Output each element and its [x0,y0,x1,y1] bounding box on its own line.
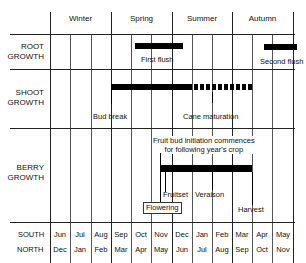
grid-line-3 [111,12,112,263]
month-north-1: Jan [70,245,90,254]
month-south-6: Dec [172,230,192,239]
label-veraison: Veraison [195,190,224,199]
row-label-berry-line2: GROWTH [0,173,44,183]
season-winter: Winter [50,14,111,23]
tick-harvest [252,172,253,205]
label-fruit-bud-line1: Fruit bud initiation commences [153,136,255,145]
label-flowering: Flowering [143,202,182,214]
month-north-10: Oct [252,245,272,254]
month-south-8: Feb [212,230,232,239]
row-label-berry: BERRY GROWTH [0,163,44,183]
bar-berry-growth [160,165,252,172]
month-north-5: May [151,245,171,254]
month-north-4: Apr [131,245,151,254]
tick-veraison [212,172,213,190]
row-divider-header [10,34,295,35]
row-label-shoot-line1: SHOOT [0,88,44,98]
tick-fruit-bud-initiation [160,153,161,205]
month-north-2: Feb [91,245,111,254]
label-fruitset: Fruitset [163,190,188,199]
month-south-7: Jan [192,230,212,239]
bar-first-flush [135,43,183,49]
tick-fruitset [165,172,166,192]
bar-second-flush [264,44,297,50]
month-north-6: Jun [172,245,192,254]
grid-line-0 [50,12,51,263]
label-north: NORTH [17,245,44,254]
month-south-9: Mar [232,230,252,239]
row-divider-berry [10,222,295,223]
season-autumn: Autumn [232,14,293,23]
row-label-root-line2: GROWTH [0,52,44,62]
label-fruit-bud-line2: for following year's crop [153,145,255,154]
label-first-flush: First flush [141,55,174,64]
label-second-flush: Second flush [260,57,303,66]
month-south-3: Sep [111,230,131,239]
month-south-10: Apr [252,230,272,239]
row-label-root-line1: ROOT [0,42,44,52]
tick-cane-maturation [212,92,213,103]
season-spring: Spring [111,14,172,23]
season-summer: Summer [172,14,232,23]
row-divider-shoot [10,128,295,129]
month-north-0: Dec [50,245,70,254]
label-harvest: Harvest [238,205,264,214]
row-divider-root [10,69,295,70]
row-label-shoot-line2: GROWTH [0,98,44,108]
month-north-8: Aug [212,245,232,254]
month-south-0: Jun [50,230,70,239]
label-fruit-bud-initiation: Fruit bud initiation commences for follo… [153,136,255,154]
month-south-1: Jul [70,230,90,239]
row-label-berry-line1: BERRY [0,163,44,173]
month-north-9: Sep [232,245,252,254]
month-south-5: Nov [151,230,171,239]
month-north-7: Jul [192,245,212,254]
row-label-root: ROOT GROWTH [0,42,44,62]
bar-shoot-growth [111,84,192,90]
label-south: SOUTH [18,230,44,239]
tick-bud-break [111,90,112,104]
month-north-11: Nov [273,245,293,254]
label-bud-break: Bud break [93,112,127,121]
row-label-shoot: SHOOT GROWTH [0,88,44,108]
month-south-11: May [273,230,293,239]
month-south-2: Aug [91,230,111,239]
month-north-3: Mar [111,245,131,254]
month-south-4: Oct [131,230,151,239]
label-cane-maturation: Cane maturation [183,112,238,121]
